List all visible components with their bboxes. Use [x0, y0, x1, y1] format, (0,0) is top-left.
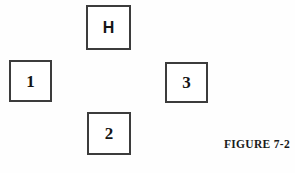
node-label-3: 3 — [182, 74, 191, 91]
node-label-h: H — [103, 20, 115, 36]
node-box-1: 1 — [9, 60, 52, 102]
figure-caption: FIGURE 7-2 — [224, 138, 290, 150]
figure-diagram-canvas: H 1 3 2 FIGURE 7-2 — [0, 0, 295, 173]
node-box-h: H — [86, 5, 131, 50]
node-label-2: 2 — [105, 125, 114, 142]
node-box-3: 3 — [165, 62, 208, 103]
node-label-1: 1 — [26, 73, 35, 90]
node-box-2: 2 — [87, 112, 131, 155]
